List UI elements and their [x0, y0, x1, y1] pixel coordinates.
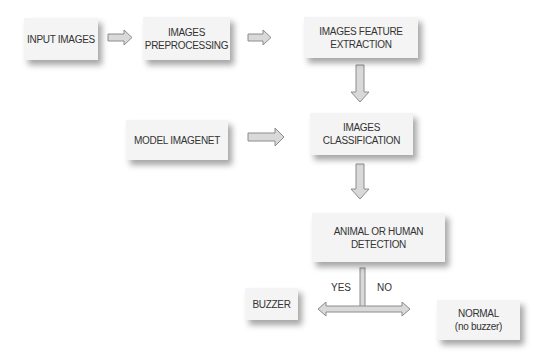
node-label: IMAGES FEATURE EXTRACTION	[319, 25, 402, 51]
node-images-feature-extraction: IMAGES FEATURE EXTRACTION	[304, 17, 418, 58]
branch-stem	[360, 268, 365, 308]
branch-label-yes: YES	[331, 282, 351, 293]
node-animal-or-human-detection: ANIMAL OR HUMAN DETECTION	[312, 213, 445, 262]
node-label: NORMAL (no buzzer)	[455, 307, 502, 333]
arrow-preprocess-to-feature	[248, 30, 271, 45]
node-label: MODEL IMAGENET	[134, 134, 220, 147]
node-label: INPUT IMAGES	[27, 33, 95, 46]
node-label: ANIMAL OR HUMAN DETECTION	[334, 225, 424, 251]
node-label: BUZZER	[252, 298, 290, 311]
arrow-input-to-preprocess	[108, 30, 132, 45]
node-model-imagenet: MODEL IMAGENET	[126, 120, 228, 160]
node-buzzer: BUZZER	[245, 288, 298, 320]
node-normal: NORMAL (no buzzer)	[437, 300, 520, 340]
node-input-images: INPUT IMAGES	[24, 18, 98, 60]
branch-label-no: NO	[377, 282, 392, 293]
node-images-classification: IMAGES CLASSIFICATION	[310, 113, 413, 155]
arrow-feature-to-classify	[351, 65, 369, 102]
node-images-preprocessing: IMAGES PREPROCESSING	[143, 17, 230, 60]
arrow-classify-to-detect	[351, 164, 369, 199]
node-label: IMAGES PREPROCESSING	[145, 26, 228, 52]
arrow-model-to-classify	[248, 128, 284, 146]
node-label: IMAGES CLASSIFICATION	[323, 121, 400, 147]
